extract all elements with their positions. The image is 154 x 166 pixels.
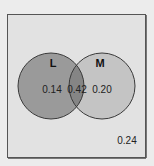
outside-value: 0.24 (117, 135, 137, 146)
intersection-value: 0.42 (67, 84, 87, 95)
set-l-label: L (50, 57, 57, 69)
l-only-value: 0.14 (42, 84, 62, 95)
set-m-label: M (95, 57, 104, 69)
m-only-value: 0.20 (92, 84, 112, 95)
venn-diagram: L M 0.14 0.42 0.20 0.24 (0, 0, 154, 166)
